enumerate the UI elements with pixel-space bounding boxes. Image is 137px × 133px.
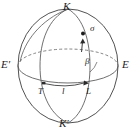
sphere-figure-svg xyxy=(0,0,137,133)
sphere-diagram: K K′ E′ E T L l β σ xyxy=(0,0,137,133)
sphere-outline xyxy=(18,9,118,123)
label-meridian-foot-left: T xyxy=(38,87,43,96)
label-equator-right: E xyxy=(122,59,129,70)
label-south-pole: K′ xyxy=(59,118,69,129)
arrow-head-sigma xyxy=(80,38,85,43)
label-north-pole: K xyxy=(63,1,70,12)
label-arc-sigma: σ xyxy=(90,24,94,33)
sigma-point-marker xyxy=(81,32,85,36)
equator-back-arc xyxy=(18,49,118,66)
meridian-arc-right xyxy=(68,9,90,123)
meridian-arc-left xyxy=(40,9,68,123)
equator-front-arc xyxy=(18,66,118,83)
label-equator-left: E′ xyxy=(1,59,10,70)
label-angle-beta: β xyxy=(85,57,89,66)
label-meridian-foot-right: L xyxy=(86,87,91,96)
meridian-arc-outer-left xyxy=(20,9,68,62)
beta-angle-arc xyxy=(90,62,97,72)
tick-marker-t xyxy=(42,82,45,85)
label-arc-length: l xyxy=(62,87,65,96)
